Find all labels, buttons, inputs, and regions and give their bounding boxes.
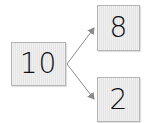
child-node-value-top: 8 (110, 14, 128, 42)
root-node-box: 10 (11, 42, 66, 86)
child-node-box-top: 8 (97, 5, 140, 51)
arrow-to-top-child (67, 28, 94, 64)
arrow-to-bottom-child (67, 64, 94, 99)
root-node-value: 10 (20, 50, 58, 78)
child-node-box-bottom: 2 (97, 77, 140, 122)
child-node-value-bottom: 2 (110, 86, 128, 114)
